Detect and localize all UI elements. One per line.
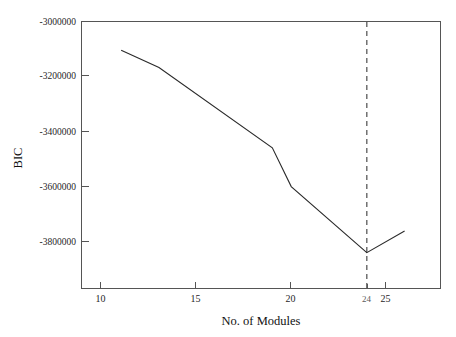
y-axis-tick-labels: -3000000 -3200000 -3400000 -3600000 -380… — [40, 17, 77, 247]
y-axis-title: BIC — [11, 148, 25, 169]
x-axis-title: No. of Modules — [222, 314, 301, 328]
bic-data-line — [121, 50, 404, 252]
x-tick-label: 10 — [96, 293, 106, 304]
y-tick-label: -3400000 — [40, 127, 77, 137]
chart-figure: -3000000 -3200000 -3400000 -3600000 -380… — [0, 0, 456, 337]
y-tick-label: -3600000 — [40, 182, 77, 192]
y-tick-label: -3800000 — [40, 237, 77, 247]
plot-frame — [82, 22, 441, 289]
x-tick-label-annotation: 24 — [362, 294, 372, 304]
x-axis-ticks — [101, 282, 386, 289]
y-tick-label: -3200000 — [40, 71, 77, 81]
x-tick-label: 25 — [381, 293, 391, 304]
bic-line-chart: -3000000 -3200000 -3400000 -3600000 -380… — [0, 0, 456, 337]
x-tick-label: 20 — [286, 293, 296, 304]
y-tick-label: -3000000 — [40, 17, 77, 27]
x-tick-label: 15 — [191, 293, 201, 304]
y-axis-ticks — [82, 22, 89, 242]
x-axis-tick-labels: 10 15 20 25 24 — [96, 293, 391, 304]
